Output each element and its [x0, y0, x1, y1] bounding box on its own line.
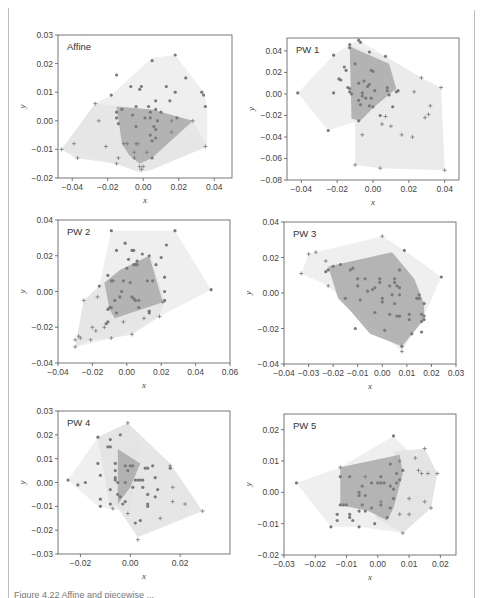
- data-point-circle: [141, 252, 144, 255]
- data-point-circle: [149, 134, 152, 137]
- data-point-circle: [125, 267, 128, 270]
- y-tick-label: 0.02: [36, 430, 53, 440]
- data-point-circle: [114, 479, 117, 482]
- x-tick-label: 0.01: [399, 368, 416, 378]
- data-point-circle: [96, 462, 99, 465]
- data-point-circle: [136, 263, 139, 266]
- data-point-circle: [159, 111, 162, 114]
- data-point-circle: [423, 318, 426, 321]
- x-tick-label: −0.02: [70, 558, 92, 568]
- data-point-circle: [109, 445, 112, 448]
- y-tick-label: −0.01: [257, 519, 279, 529]
- data-point-circle: [127, 258, 130, 261]
- x-tick-label: 0.02: [432, 559, 449, 569]
- data-point-circle: [379, 114, 382, 117]
- y-tick-label: 0.03: [36, 406, 53, 416]
- data-point-circle: [373, 311, 376, 314]
- data-point-circle: [392, 434, 395, 437]
- y-tick-label: −0.06: [260, 153, 282, 163]
- data-point-circle: [124, 500, 127, 503]
- y-tick-label: 0.02: [262, 425, 279, 435]
- data-point-circle: [66, 479, 69, 482]
- data-point-circle: [138, 88, 141, 91]
- data-point-circle: [366, 290, 369, 293]
- data-point-circle: [151, 59, 154, 62]
- data-point-circle: [342, 503, 345, 506]
- data-point-circle: [151, 279, 154, 282]
- panel-title: PW 5: [293, 420, 316, 431]
- data-point-circle: [106, 274, 109, 277]
- data-point-circle: [386, 89, 389, 92]
- data-point-circle: [296, 91, 299, 94]
- data-point-circle: [348, 46, 351, 49]
- data-point-circle: [165, 85, 168, 88]
- data-point-circle: [173, 229, 176, 232]
- data-point-circle: [76, 483, 79, 486]
- data-point-circle: [339, 475, 342, 478]
- data-point-circle: [200, 91, 203, 94]
- y-tick-label: 0.01: [36, 454, 53, 464]
- x-tick-label: −0.03: [273, 559, 295, 569]
- data-point-circle: [420, 330, 423, 333]
- data-point-circle: [154, 136, 157, 139]
- y-axis-label: y: [243, 291, 253, 296]
- data-point-circle: [134, 299, 137, 302]
- data-point-circle: [332, 54, 335, 57]
- x-tick-label: 0.00: [365, 184, 382, 194]
- data-point-circle: [357, 119, 360, 122]
- y-axis-label: y: [243, 483, 253, 488]
- data-point-circle: [423, 315, 426, 318]
- data-point-circle: [339, 263, 342, 266]
- data-point-circle: [351, 267, 354, 270]
- data-point-circle: [356, 277, 359, 280]
- scatter-panel-affine: −0.04−0.020.000.020.04−0.02−0.010.000.01…: [18, 31, 236, 208]
- y-tick-label: −0.02: [260, 110, 282, 120]
- data-point-circle: [137, 306, 140, 309]
- data-point-circle: [110, 94, 113, 97]
- y-tick-label: −0.04: [260, 132, 282, 142]
- data-point-circle: [391, 105, 394, 108]
- y-tick-label: 0.00: [36, 287, 53, 297]
- data-point-circle: [343, 65, 346, 68]
- data-point-circle: [110, 306, 113, 309]
- data-point-circle: [202, 94, 205, 97]
- data-point-circle: [379, 503, 382, 506]
- data-point-circle: [114, 469, 117, 472]
- data-point-circle: [165, 243, 168, 246]
- x-tick-label: 0.03: [448, 368, 465, 378]
- data-point-circle: [119, 433, 122, 436]
- data-point-circle: [154, 99, 157, 102]
- data-point-circle: [388, 313, 391, 316]
- data-point-circle: [148, 311, 151, 314]
- x-tick-label: −0.04: [291, 184, 313, 194]
- light-hull-b: [98, 423, 203, 537]
- y-tick-label: 0.01: [262, 456, 279, 466]
- y-tick-label: −0.08: [260, 175, 282, 185]
- data-point-circle: [403, 249, 406, 252]
- data-point-circle: [120, 108, 123, 111]
- data-point-circle: [132, 249, 135, 252]
- data-point-circle: [115, 111, 118, 114]
- data-point-circle: [295, 481, 298, 484]
- data-point-circle: [109, 502, 112, 505]
- x-tick-label: 0.02: [423, 368, 440, 378]
- data-point-circle: [154, 108, 157, 111]
- data-point-circle: [389, 485, 392, 488]
- data-point-circle: [364, 494, 367, 497]
- y-tick-label: −0.02: [31, 173, 53, 183]
- data-point-circle: [373, 89, 376, 92]
- data-point-circle: [111, 279, 114, 282]
- data-point-circle: [99, 505, 102, 508]
- y-tick-label: 0.00: [36, 478, 53, 488]
- data-point-circle: [135, 105, 138, 108]
- data-point-circle: [148, 254, 151, 257]
- x-tick-label: 0.04: [436, 184, 453, 194]
- data-point-circle: [154, 128, 157, 131]
- data-point-circle: [364, 277, 367, 280]
- data-point-circle: [398, 315, 401, 318]
- data-point-circle: [146, 493, 149, 496]
- data-point-circle: [386, 516, 389, 519]
- data-point-circle: [332, 265, 335, 268]
- data-point-circle: [359, 299, 362, 302]
- data-point-circle: [106, 320, 109, 323]
